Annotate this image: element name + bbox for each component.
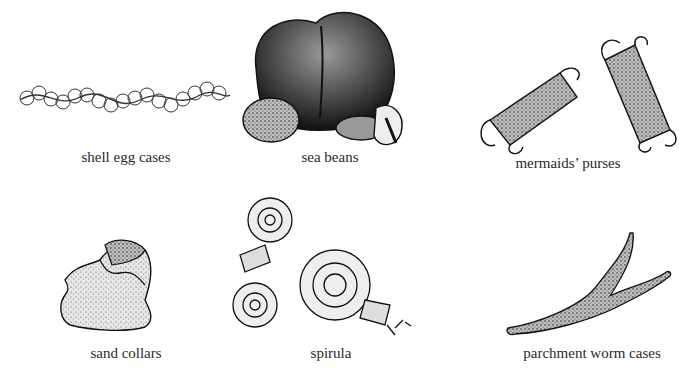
spirula-illustration [225,200,420,340]
caption-shell-egg-cases: shell egg cases [81,149,170,166]
caption-spirula: spirula [311,345,352,362]
parchment-worm-cases-illustration [500,228,680,338]
caption-sand-collars: sand collars [90,345,161,362]
sand-collars-illustration [50,235,160,335]
caption-sea-beans: sea beans [301,149,358,166]
shell-egg-cases-illustration [15,65,235,135]
sea-beans-illustration [236,8,416,148]
caption-mermaids-purses: mermaids’ purses [515,155,620,172]
mermaids-purses-illustration [465,35,680,155]
caption-parchment-worm-cases: parchment worm cases [523,345,660,362]
